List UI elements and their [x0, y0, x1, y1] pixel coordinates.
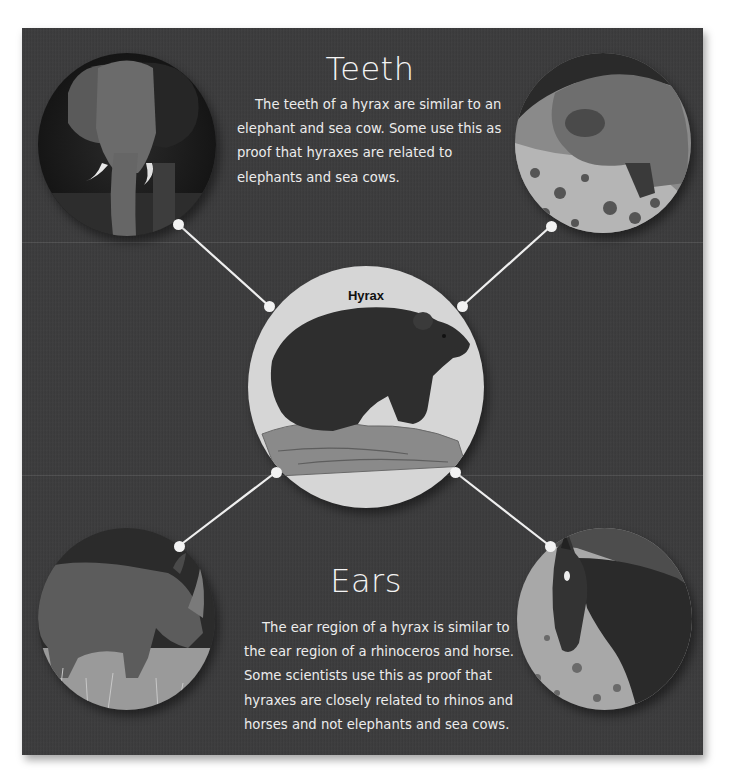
connector-dot: [450, 467, 461, 478]
sea-cow-image: [515, 53, 691, 233]
elephant-photo: [38, 53, 216, 236]
connector-dot: [264, 301, 275, 312]
connector-dot: [173, 219, 184, 230]
connector-dot: [457, 301, 468, 312]
sea-cow-photo: [515, 53, 691, 233]
connector-dot: [271, 467, 282, 478]
connector-dot: [545, 541, 556, 552]
teeth-heading: Teeth: [280, 50, 460, 88]
hyrax-hub: Hyrax: [248, 266, 484, 508]
connector-dot: [174, 541, 185, 552]
rhinoceros-photo: [38, 528, 215, 710]
horse-photo: [517, 528, 692, 710]
connector-dot: [546, 221, 557, 232]
ears-description: The ear region of a hyrax is similar to …: [244, 616, 516, 737]
elephant-image: [38, 53, 216, 236]
ears-heading: Ears: [276, 562, 456, 600]
teeth-description: The teeth of a hyrax are similar to an e…: [237, 93, 509, 190]
rhinoceros-image: [38, 528, 215, 710]
fold-line: [22, 242, 703, 243]
horse-image: [517, 528, 692, 710]
hub-label: Hyrax: [248, 288, 484, 303]
